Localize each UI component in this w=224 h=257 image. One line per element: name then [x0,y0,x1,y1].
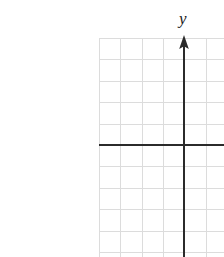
coordinate-grid-figure: y [0,0,224,257]
y-axis-label: y [179,10,187,27]
coordinate-grid-svg [0,0,224,257]
grid-lines [99,38,224,257]
screenshot-root: y [0,0,224,257]
